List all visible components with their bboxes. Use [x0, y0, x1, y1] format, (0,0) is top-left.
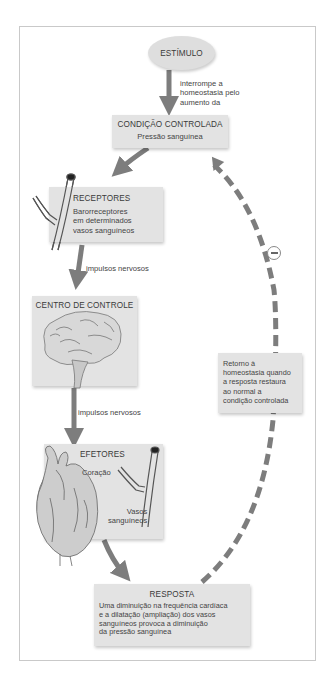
label-line: aumento da	[180, 98, 240, 107]
response-box: RESPOSTA Uma diminuição na frequência ca…	[94, 584, 250, 646]
stimulus-arrow-label: interrompe a homeostasia pelo aumento da	[180, 79, 240, 107]
receptors-to-control-arrow	[77, 245, 82, 280]
effectors-title: EFETORES	[80, 450, 163, 459]
control-center-title: CENTRO DE CONTROLE	[32, 301, 137, 310]
receptors-box: RECEPTORES Barorreceptores em determinad…	[49, 187, 163, 242]
feedback-line: a resposta restaura	[223, 377, 302, 386]
response-description: Uma diminuição na frequência cardíaca e …	[99, 602, 250, 637]
receptors-title: RECEPTORES	[73, 194, 163, 203]
effectors-to-response-arrow	[104, 540, 124, 574]
receptors-line: em determinados	[73, 216, 163, 225]
feedback-line: condição controlada	[223, 396, 302, 405]
receptors-line: Barorreceptores	[73, 207, 163, 216]
label-line: homeostasia pelo	[180, 88, 240, 97]
response-line: da pressão sanguínea	[99, 628, 250, 637]
stimulus-node: ESTÍMULO	[148, 36, 215, 70]
feedback-line: ao normal a	[223, 387, 302, 396]
effectors-heart-label: Coração	[82, 468, 111, 477]
receptors-arrow-label: impulsos nervosos	[86, 264, 149, 273]
receptors-description: Barorreceptores em determinados vasos sa…	[73, 207, 163, 235]
stimulus-label: ESTÍMULO	[160, 49, 203, 58]
negative-feedback-minus-icon	[267, 246, 281, 260]
feedback-line: homeostasia quando	[223, 368, 302, 377]
receptors-line: vasos sanguíneos	[73, 226, 163, 235]
control-center-box: CENTRO DE CONTROLE Encéfalo	[32, 296, 137, 386]
controlled-condition-subtitle: Pressão sanguínea	[112, 132, 228, 141]
control-center-subtitle: Encéfalo	[32, 314, 137, 323]
feedback-description: Retorno à homeostasia quando a resposta …	[223, 359, 302, 405]
control-arrow-label: impulsos nervosos	[78, 408, 141, 417]
effectors-vessels-label: Vasos sanguíneos	[108, 507, 147, 526]
response-title: RESPOSTA	[99, 590, 250, 599]
controlled-condition-box: CONDIÇÃO CONTROLADA Pressão sanguínea	[112, 115, 228, 148]
vessels-line: Vasos	[108, 507, 147, 516]
controlled-condition-title: CONDIÇÃO CONTROLADA	[112, 120, 228, 129]
condition-to-receptors-arrow	[119, 148, 148, 170]
label-line: interrompe a	[180, 79, 240, 88]
vessels-line: sanguíneos	[108, 516, 147, 525]
feedback-box: Retorno à homeostasia quando a resposta …	[218, 353, 302, 413]
feedback-line: Retorno à	[223, 359, 302, 368]
